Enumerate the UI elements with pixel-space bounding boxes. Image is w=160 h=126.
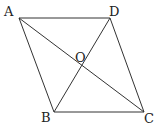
label-o: O [75, 50, 86, 65]
segment-dc [110, 18, 144, 112]
diagonal-bd [54, 18, 110, 112]
label-b: B [41, 110, 51, 125]
label-d: D [109, 4, 119, 19]
segment-ab [19, 18, 54, 112]
label-a: A [3, 4, 14, 19]
label-c: C [144, 111, 154, 126]
parallelogram-diagram: A D B C O [0, 0, 160, 126]
